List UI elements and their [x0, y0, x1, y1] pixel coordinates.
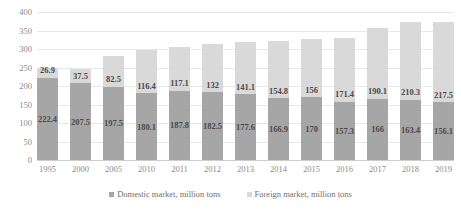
- bar-value-label-foreign: 116.4: [137, 82, 156, 91]
- x-axis-tick-label: 2014: [268, 165, 289, 174]
- bar-column: 190.1166: [367, 12, 388, 160]
- y-axis-tick-label: 50: [0, 137, 32, 146]
- x-axis-tick-label: 2016: [334, 165, 355, 174]
- bar-series-container: 26.9222.437.5207.582.5197.5116.4180.1117…: [37, 12, 454, 160]
- bar-segment-foreign: 210.3: [400, 22, 421, 100]
- y-axis-tick-label: 350: [0, 26, 32, 35]
- bar-value-label-domestic: 207.5: [71, 118, 90, 127]
- bar-segment-foreign: 82.5: [103, 56, 124, 87]
- bar-value-label-foreign: 37.5: [73, 72, 88, 81]
- bar-column: 82.5197.5: [103, 12, 124, 160]
- bar-value-label-foreign: 117.1: [170, 79, 189, 88]
- legend-swatch-icon: [247, 192, 252, 197]
- bar-value-label-foreign: 217.5: [434, 91, 453, 100]
- bar-segment-foreign: 156: [301, 39, 322, 97]
- bar-value-label-domestic: 157.3: [335, 127, 354, 136]
- x-axis-tick-label: 2011: [169, 165, 190, 174]
- bar-column: 156170: [301, 12, 322, 160]
- bar-value-label-foreign: 171.4: [335, 90, 354, 99]
- x-axis-tick-label: 2013: [235, 165, 256, 174]
- bar-value-label-domestic: 166.9: [269, 125, 288, 134]
- bar-value-label-foreign: 190.1: [368, 87, 387, 96]
- chart-legend: Domestic market, million tonsForeign mar…: [0, 189, 461, 199]
- bar-segment-foreign: 37.5: [70, 69, 91, 83]
- bar-segment-foreign: 190.1: [367, 28, 388, 98]
- legend-item-label: Foreign market, million tons: [255, 189, 352, 199]
- bar-value-label-domestic: 163.4: [401, 126, 420, 135]
- bar-column: 37.5207.5: [70, 12, 91, 160]
- bar-column: 171.4157.3: [334, 12, 355, 160]
- bar-segment-foreign: 217.5: [433, 22, 454, 102]
- x-axis-baseline: [37, 160, 454, 161]
- legend-item[interactable]: Foreign market, million tons: [247, 189, 352, 199]
- y-axis-tick-label: 100: [0, 119, 32, 128]
- bar-segment-domestic: 166.9: [268, 98, 289, 160]
- bar-segment-foreign: 132: [202, 44, 223, 93]
- legend-swatch-icon: [109, 192, 114, 197]
- y-axis-tick-label: 200: [0, 82, 32, 91]
- bar-value-label-domestic: 180.1: [137, 123, 156, 132]
- bar-segment-foreign: 117.1: [169, 47, 190, 90]
- y-axis-labels: 050100150200250300350400: [0, 12, 32, 160]
- bar-segment-domestic: 157.3: [334, 102, 355, 160]
- bar-value-label-domestic: 170: [305, 125, 318, 134]
- stacked-bar-chart: 050100150200250300350400 26.9222.437.520…: [0, 0, 461, 209]
- bar-segment-domestic: 222.4: [37, 78, 58, 160]
- bar-segment-foreign: 154.8: [268, 41, 289, 98]
- x-axis-tick-label: 2017: [367, 165, 388, 174]
- x-axis-tick-label: 2000: [70, 165, 91, 174]
- x-axis-labels: 1995200020052010201120122013201420152016…: [37, 165, 454, 174]
- legend-item-label: Domestic market, million tons: [117, 189, 220, 199]
- bar-column: 117.1187.8: [169, 12, 190, 160]
- y-axis-tick-label: 0: [0, 156, 32, 165]
- bar-value-label-foreign: 156: [305, 86, 318, 95]
- y-axis-tick-label: 400: [0, 8, 32, 17]
- x-axis-tick-label: 2012: [202, 165, 223, 174]
- bar-value-label-foreign: 132: [206, 81, 219, 90]
- bar-segment-foreign: 26.9: [37, 68, 58, 78]
- x-axis-tick-label: 2019: [433, 165, 454, 174]
- bar-value-label-foreign: 141.1: [236, 83, 255, 92]
- x-axis-tick-label: 2015: [301, 165, 322, 174]
- bar-value-label-domestic: 182.5: [203, 122, 222, 131]
- bar-column: 217.5156.1: [433, 12, 454, 160]
- bar-value-label-foreign: 26.9: [40, 66, 55, 75]
- bar-value-label-foreign: 210.3: [401, 88, 420, 97]
- bar-segment-domestic: 182.5: [202, 92, 223, 160]
- bar-column: 141.1177.6: [235, 12, 256, 160]
- bar-value-label-domestic: 197.5: [104, 119, 123, 128]
- y-axis-tick-label: 300: [0, 45, 32, 54]
- bar-column: 132182.5: [202, 12, 223, 160]
- bar-segment-domestic: 177.6: [235, 94, 256, 160]
- bar-value-label-domestic: 156.1: [434, 127, 453, 136]
- bar-column: 116.4180.1: [136, 12, 157, 160]
- bar-segment-domestic: 170: [301, 97, 322, 160]
- x-axis-tick-label: 2010: [136, 165, 157, 174]
- y-axis-tick-label: 250: [0, 63, 32, 72]
- bar-value-label-domestic: 166: [371, 125, 384, 134]
- bar-column: 210.3163.4: [400, 12, 421, 160]
- bar-segment-domestic: 180.1: [136, 93, 157, 160]
- bar-column: 154.8166.9: [268, 12, 289, 160]
- x-axis-tick-label: 1995: [37, 165, 58, 174]
- bar-segment-domestic: 163.4: [400, 100, 421, 160]
- bar-value-label-foreign: 82.5: [106, 75, 121, 84]
- bar-segment-foreign: 116.4: [136, 50, 157, 93]
- bar-segment-domestic: 156.1: [433, 102, 454, 160]
- bar-value-label-domestic: 187.8: [170, 121, 189, 130]
- bar-column: 26.9222.4: [37, 12, 58, 160]
- bar-segment-domestic: 187.8: [169, 91, 190, 160]
- bar-value-label-domestic: 177.6: [236, 123, 255, 132]
- x-axis-tick-label: 2018: [400, 165, 421, 174]
- y-axis-tick-label: 150: [0, 100, 32, 109]
- plot-area: 26.9222.437.5207.582.5197.5116.4180.1117…: [37, 12, 454, 160]
- x-axis-tick-label: 2005: [103, 165, 124, 174]
- bar-segment-domestic: 166: [367, 99, 388, 160]
- bar-segment-domestic: 197.5: [103, 87, 124, 160]
- bar-segment-foreign: 171.4: [334, 38, 355, 101]
- legend-item[interactable]: Domestic market, million tons: [109, 189, 220, 199]
- bar-segment-domestic: 207.5: [70, 83, 91, 160]
- bar-value-label-foreign: 154.8: [269, 87, 288, 96]
- bar-value-label-domestic: 222.4: [38, 115, 57, 124]
- bar-segment-foreign: 141.1: [235, 42, 256, 94]
